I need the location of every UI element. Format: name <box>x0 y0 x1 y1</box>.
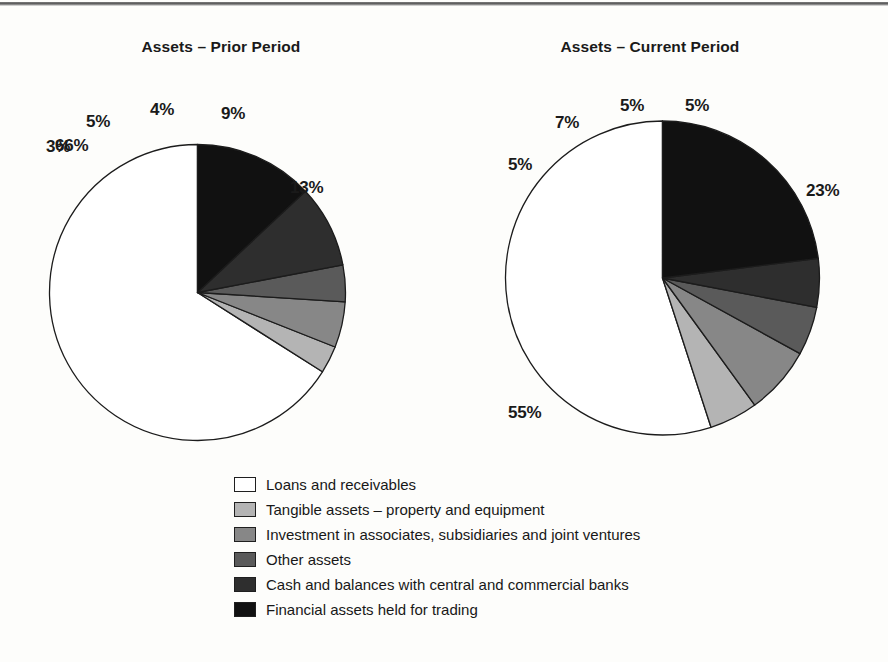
pie-label-current-investment-in-associates: 7% <box>555 113 579 133</box>
pie-label-current-financial-assets-held-for-trading: 23% <box>806 181 839 201</box>
chart-legend: Loans and receivables Tangible assets – … <box>234 472 754 622</box>
pie-slices-current-period <box>506 121 820 435</box>
pie-label-prior-financial-assets-held-for-trading: 13% <box>290 178 323 198</box>
legend-swatch-financial-assets-held-for-trading <box>234 602 256 617</box>
legend-label: Cash and balances with central and comme… <box>266 577 629 592</box>
pie-label-current-tangible-assets: 5% <box>508 155 532 175</box>
legend-item: Other assets <box>234 547 754 571</box>
legend-label: Financial assets held for trading <box>266 602 478 617</box>
legend-item: Loans and receivables <box>234 472 754 496</box>
pie-label-current-loans-and-receivables: 55% <box>508 403 541 423</box>
pie-label-prior-tangible-assets: 3% <box>46 137 70 157</box>
pie-label-current-other-assets: 5% <box>620 96 644 116</box>
legend-swatch-cash-and-balances <box>234 577 256 592</box>
assets-pie-figure: Assets – Prior Period Assets – Current P… <box>0 0 888 662</box>
legend-label: Loans and receivables <box>266 477 416 492</box>
legend-swatch-tangible-assets <box>234 502 256 517</box>
pie-chart-current-period <box>500 120 825 445</box>
legend-swatch-investment-in-associates <box>234 527 256 542</box>
pie-label-prior-investment-in-associates: 5% <box>86 112 110 132</box>
pie-svg-current-period <box>500 120 825 445</box>
pie-label-prior-cash-and-balances: 9% <box>221 104 245 124</box>
legend-item: Cash and balances with central and comme… <box>234 572 754 596</box>
legend-item: Investment in associates, subsidiaries a… <box>234 522 754 546</box>
legend-label: Tangible assets – property and equipment <box>266 502 545 517</box>
legend-item: Tangible assets – property and equipment <box>234 497 754 521</box>
legend-swatch-other-assets <box>234 552 256 567</box>
legend-swatch-loans-and-receivables <box>234 477 256 492</box>
pie-label-current-cash-and-balances: 5% <box>685 96 709 116</box>
legend-item: Financial assets held for trading <box>234 597 754 621</box>
chart-title-prior-period: Assets – Prior Period <box>96 38 346 56</box>
pie-label-prior-other-assets: 4% <box>150 100 174 120</box>
pie-slice <box>663 121 819 278</box>
legend-label: Investment in associates, subsidiaries a… <box>266 527 640 542</box>
chart-title-current-period: Assets – Current Period <box>520 38 780 56</box>
legend-label: Other assets <box>266 552 351 567</box>
